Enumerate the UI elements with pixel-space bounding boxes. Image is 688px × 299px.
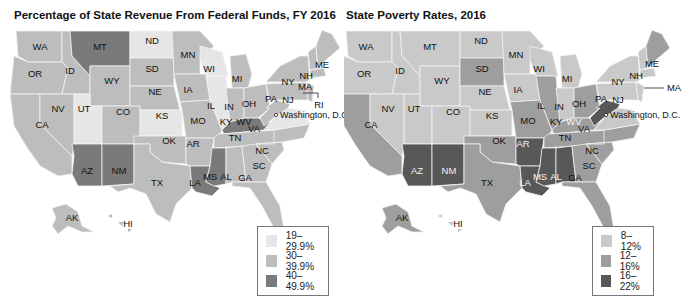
poverty-rates-map-panel: State Poverty Rates, 2016 bbox=[344, 0, 688, 299]
svg-text:WV: WV bbox=[566, 116, 582, 127]
svg-text:AK: AK bbox=[396, 212, 409, 223]
dc-marker-icon bbox=[604, 113, 607, 116]
svg-text:CO: CO bbox=[116, 106, 130, 117]
svg-text:HI: HI bbox=[453, 218, 463, 229]
svg-text:OH: OH bbox=[242, 98, 256, 109]
svg-text:NC: NC bbox=[255, 145, 269, 156]
svg-text:SD: SD bbox=[145, 63, 158, 74]
legend-swatch bbox=[601, 275, 611, 287]
svg-text:SC: SC bbox=[252, 160, 265, 171]
legend-label: 12–16% bbox=[620, 250, 645, 272]
map-title: State Poverty Rates, 2016 bbox=[346, 9, 486, 21]
legend-item: 8–12% bbox=[601, 231, 645, 251]
legend: 19–29.9% 30–39.9% 40–49.9% bbox=[257, 226, 329, 296]
svg-text:UT: UT bbox=[78, 103, 91, 114]
svg-text:KS: KS bbox=[486, 110, 499, 121]
svg-text:OR: OR bbox=[357, 68, 371, 79]
svg-text:TN: TN bbox=[229, 132, 242, 143]
svg-text:IN: IN bbox=[554, 101, 564, 112]
svg-text:ID: ID bbox=[65, 65, 75, 76]
legend-item: 40–49.9% bbox=[266, 271, 320, 291]
svg-text:ID: ID bbox=[395, 65, 405, 76]
legend-label: 30–39.9% bbox=[286, 250, 320, 272]
svg-text:IA: IA bbox=[184, 84, 194, 95]
svg-text:MN: MN bbox=[181, 49, 196, 60]
svg-text:HI: HI bbox=[123, 218, 133, 229]
svg-text:ME: ME bbox=[645, 58, 659, 69]
state-wy bbox=[90, 66, 130, 106]
svg-text:LA: LA bbox=[519, 177, 531, 188]
svg-text:IL: IL bbox=[537, 100, 545, 111]
svg-text:MO: MO bbox=[520, 115, 535, 126]
svg-text:UT: UT bbox=[408, 103, 421, 114]
svg-text:SC: SC bbox=[582, 160, 595, 171]
svg-text:SD: SD bbox=[475, 63, 488, 74]
legend-item: 30–39.9% bbox=[266, 251, 320, 271]
svg-text:ND: ND bbox=[145, 35, 159, 46]
svg-text:AZ: AZ bbox=[411, 165, 423, 176]
legend-label: 8–12% bbox=[621, 230, 645, 252]
svg-text:MN: MN bbox=[509, 49, 524, 60]
legend-label: 16–22% bbox=[620, 270, 645, 292]
svg-text:NE: NE bbox=[148, 86, 161, 97]
svg-text:NH: NH bbox=[299, 70, 313, 81]
svg-text:MS: MS bbox=[203, 171, 217, 182]
svg-text:IA: IA bbox=[514, 84, 524, 95]
dc-label: Washington, D.C. bbox=[280, 110, 344, 120]
state-fl bbox=[232, 182, 284, 232]
svg-text:RI: RI bbox=[314, 99, 324, 110]
svg-text:MT: MT bbox=[93, 41, 107, 52]
svg-text:AZ: AZ bbox=[81, 165, 93, 176]
legend-label: 40–49.9% bbox=[286, 270, 320, 292]
svg-text:WA: WA bbox=[359, 41, 375, 52]
svg-text:WY: WY bbox=[434, 75, 450, 86]
svg-text:MA: MA bbox=[298, 81, 313, 92]
svg-text:LA: LA bbox=[189, 177, 201, 188]
svg-text:WA: WA bbox=[33, 41, 49, 52]
svg-text:PA: PA bbox=[595, 93, 608, 104]
svg-text:OK: OK bbox=[162, 135, 176, 146]
poverty-rates-map: WAMT NDMN ORID SDWY WIMI NEIA NVUT COKS … bbox=[344, 26, 688, 236]
svg-text:NM: NM bbox=[112, 165, 127, 176]
svg-text:NH: NH bbox=[629, 70, 643, 81]
svg-text:WI: WI bbox=[533, 63, 545, 74]
svg-text:KY: KY bbox=[220, 116, 233, 127]
svg-text:MS: MS bbox=[533, 171, 547, 182]
legend-swatch bbox=[266, 255, 277, 267]
svg-text:AR: AR bbox=[516, 138, 529, 149]
svg-text:NV: NV bbox=[381, 103, 395, 114]
legend-item: 16–22% bbox=[601, 271, 645, 291]
svg-text:MT: MT bbox=[423, 41, 437, 52]
svg-text:TX: TX bbox=[151, 177, 164, 188]
svg-text:MO: MO bbox=[190, 115, 205, 126]
legend-swatch bbox=[601, 235, 612, 247]
dc-marker-icon bbox=[274, 113, 277, 116]
svg-text:IN: IN bbox=[224, 101, 234, 112]
federal-funds-map: WAMT NDMN ORID SDWY WIMI NEIA NVUT COKS … bbox=[0, 26, 344, 236]
svg-text:NY: NY bbox=[611, 76, 625, 87]
svg-text:AR: AR bbox=[186, 138, 199, 149]
svg-text:OH: OH bbox=[572, 98, 586, 109]
svg-text:ME: ME bbox=[315, 59, 329, 70]
legend: 8–12% 12–16% 16–22% bbox=[592, 226, 654, 296]
svg-text:CA: CA bbox=[35, 119, 49, 130]
state-fl bbox=[562, 182, 614, 232]
svg-text:NE: NE bbox=[478, 86, 491, 97]
svg-text:IL: IL bbox=[207, 100, 215, 111]
svg-text:AL: AL bbox=[220, 171, 232, 182]
svg-text:CO: CO bbox=[446, 106, 460, 117]
map-title: Percentage of State Revenue From Federal… bbox=[14, 9, 336, 21]
svg-text:AK: AK bbox=[66, 212, 79, 223]
legend-swatch bbox=[266, 235, 277, 247]
svg-text:WY: WY bbox=[104, 75, 120, 86]
svg-text:WI: WI bbox=[203, 63, 215, 74]
svg-text:OK: OK bbox=[492, 135, 506, 146]
state-wy bbox=[420, 66, 460, 106]
svg-text:NJ: NJ bbox=[612, 94, 624, 105]
svg-text:PA: PA bbox=[265, 93, 278, 104]
svg-text:CA: CA bbox=[364, 119, 378, 130]
svg-text:GA: GA bbox=[568, 172, 582, 183]
svg-text:NM: NM bbox=[442, 165, 457, 176]
svg-text:MA: MA bbox=[667, 82, 682, 93]
legend-item: 12–16% bbox=[601, 251, 645, 271]
